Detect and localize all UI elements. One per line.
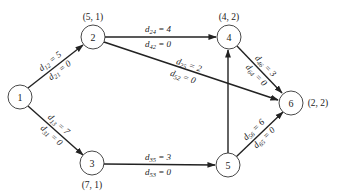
node-1-label: 1 (18, 92, 23, 103)
node-5-label: 5 (226, 160, 231, 171)
node-4-coord: (4, 2) (219, 12, 240, 23)
diagram-canvas: 1 2 (5, 1) 3 (7, 1) 4 (4, 2) 5 6 (2, 2) … (0, 0, 346, 194)
node-2: 2 (5, 1) (81, 12, 105, 49)
node-2-coord: (5, 1) (83, 12, 104, 23)
edge-2-6-labels: d25 = 2 d52 = 0 (169, 55, 204, 87)
network-diagram: 1 2 (5, 1) 3 (7, 1) 4 (4, 2) 5 6 (2, 2) … (0, 0, 346, 194)
node-3-label: 3 (90, 158, 95, 169)
node-1: 1 (8, 85, 32, 109)
node-3-coord: (7, 1) (82, 180, 103, 191)
node-6-label: 6 (289, 98, 294, 109)
d53-label: d53 = 0 (145, 167, 172, 178)
node-2-label: 2 (91, 32, 96, 43)
edge-3-5 (104, 164, 215, 165)
node-3: 3 (7, 1) (80, 151, 104, 191)
node-6: 6 (2, 2) (279, 91, 328, 115)
node-4: 4 (4, 2) (217, 12, 241, 49)
edge-1-2-labels: d12 = 5 d21 = 0 (37, 48, 74, 85)
d35-label: d35 = 3 (145, 152, 172, 163)
d24-label: d24 = 4 (145, 24, 172, 35)
d25-label: d25 = 2 (175, 56, 204, 75)
node-4-label: 4 (227, 32, 232, 43)
d42-label: d42 = 0 (145, 39, 172, 50)
node-6-coord: (2, 2) (308, 98, 329, 109)
node-5: 5 (216, 153, 240, 177)
